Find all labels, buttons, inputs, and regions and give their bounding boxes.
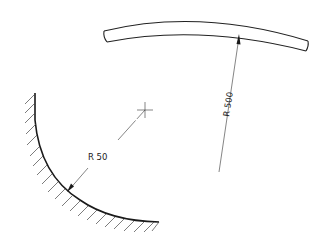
curved-bar <box>104 22 308 51</box>
r500-label: R 500 <box>221 91 235 117</box>
r50-dimension-leader <box>67 110 145 192</box>
r500-arrowhead-icon <box>237 34 241 45</box>
r50-label: R 50 <box>88 152 107 162</box>
section-hatch <box>25 94 159 232</box>
hatched-concave-arc <box>25 93 159 232</box>
radius-dimension-drawing: R 500 R 50 <box>0 0 327 250</box>
